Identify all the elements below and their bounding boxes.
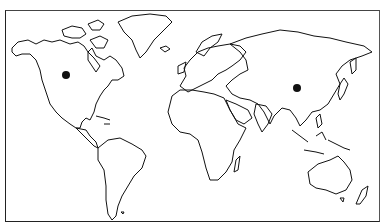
europe-outline [178, 44, 246, 92]
north-america-marker[interactable] [62, 71, 70, 79]
falklands-outline [121, 212, 124, 214]
australia-outline [308, 156, 352, 194]
india-outline [254, 104, 272, 132]
arabia-outline [226, 100, 252, 124]
new-zealand-outline [356, 186, 368, 204]
north-america-outline [12, 40, 124, 128]
tasmania-outline [340, 198, 344, 202]
madagascar-outline [234, 156, 240, 172]
hudson-bay-outline [88, 52, 100, 72]
world-map [0, 0, 386, 224]
central-america-outline [76, 116, 110, 148]
asia-marker[interactable] [293, 84, 301, 92]
philippines-outline [316, 114, 322, 128]
japan-outline [338, 58, 356, 100]
south-america-outline [98, 138, 146, 220]
asia-outline [226, 30, 372, 126]
iceland-outline [160, 46, 170, 52]
indonesia-outline [292, 130, 350, 154]
scandinavia-outline [196, 34, 222, 56]
